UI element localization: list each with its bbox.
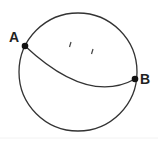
tick-mark-1	[70, 42, 72, 47]
tick-mark-2	[92, 49, 94, 54]
outer-circle	[19, 13, 137, 131]
label-a: A	[9, 29, 19, 45]
geometry-diagram: A B	[0, 0, 158, 142]
label-b: B	[140, 71, 150, 87]
arc-a-to-b	[25, 46, 135, 87]
point-a	[22, 43, 29, 50]
point-b	[132, 76, 139, 83]
